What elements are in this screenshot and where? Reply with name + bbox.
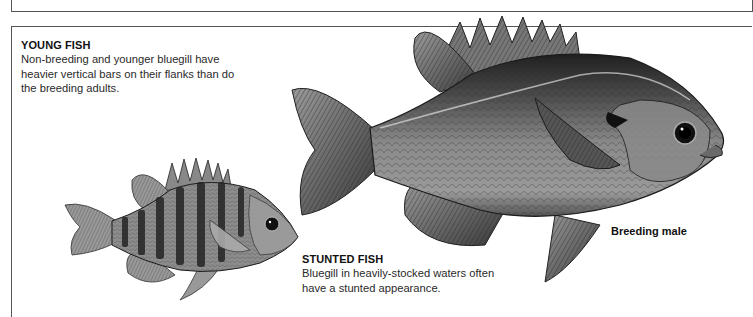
stunted-fish-illustration <box>60 155 310 303</box>
young-fish-caption: YOUNG FISH Non-breeding and younger blue… <box>21 38 246 96</box>
stunted-fish-heading: STUNTED FISH <box>302 252 502 266</box>
top-frame-border <box>11 0 753 12</box>
young-fish-description: Non-breeding and younger bluegill have h… <box>21 52 246 95</box>
stunted-fish-description: Bluegill in heavily-stocked waters often… <box>302 266 502 295</box>
young-fish-heading: YOUNG FISH <box>21 38 246 52</box>
stunted-fish-caption: STUNTED FISH Bluegill in heavily-stocked… <box>302 252 502 295</box>
breeding-male-label: Breeding male <box>611 225 687 237</box>
